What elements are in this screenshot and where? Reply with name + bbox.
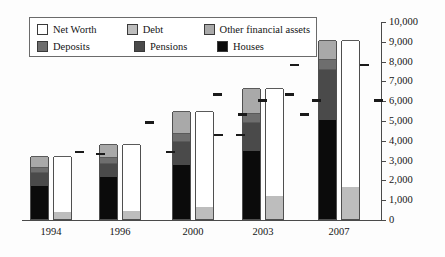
y-axis-tick: [381, 81, 386, 82]
bar-segment-deposits-1996[interactable]: [100, 157, 117, 163]
reference-marker-1996: [75, 151, 84, 154]
x-axis-label-2000: 2000: [163, 226, 223, 237]
bar-segment-debt-1994[interactable]: [54, 212, 71, 219]
y-axis-tick-label: 10,000: [389, 17, 418, 27]
bar-segment-net-worth-1994[interactable]: [54, 156, 71, 212]
bar-chart: Net Worth Debt Other financial assets De…: [0, 0, 445, 257]
bar-group-2007: [318, 22, 362, 220]
bar-segment-pensions-2007[interactable]: [319, 69, 336, 120]
reference-marker-2007: [258, 99, 267, 102]
x-axis-label-2007: 2007: [309, 226, 369, 237]
y-axis-tick-label: 9,000: [389, 37, 413, 47]
bar-segment-other-financial-assets-1994[interactable]: [31, 156, 48, 167]
bar-group-2003: [242, 22, 286, 220]
assets-bar-2000[interactable]: [172, 112, 191, 220]
bar-group-1996: [99, 22, 143, 220]
y-axis-tick: [381, 200, 386, 201]
reference-marker-2000: [236, 134, 245, 137]
bar-segment-net-worth-1996[interactable]: [123, 144, 140, 211]
reference-marker-2000: [214, 134, 223, 137]
y-axis-tick-label: 2,000: [389, 175, 413, 185]
bar-segment-pensions-1996[interactable]: [100, 163, 117, 178]
assets-bar-1994[interactable]: [30, 157, 49, 220]
networth-bar-2000[interactable]: [195, 112, 214, 220]
y-axis-tick: [381, 180, 386, 181]
y-axis-tick-label: 5,000: [389, 116, 413, 126]
networth-bar-2007[interactable]: [341, 41, 360, 220]
bar-segment-pensions-2003[interactable]: [243, 122, 260, 151]
reference-marker-2000: [145, 121, 154, 124]
reference-marker-2003: [213, 93, 222, 96]
x-axis-label-1994: 1994: [21, 226, 81, 237]
bar-segment-houses-2007[interactable]: [319, 120, 336, 219]
plot-area: [22, 22, 374, 220]
y-axis-tick: [381, 22, 386, 23]
y-axis-tick-label: 1,000: [389, 195, 413, 205]
bar-segment-debt-2007[interactable]: [342, 187, 359, 219]
bar-segment-deposits-2007[interactable]: [319, 59, 336, 69]
y-axis-tick-label: 6,000: [389, 96, 413, 106]
assets-bar-2007[interactable]: [318, 41, 337, 220]
assets-bar-1996[interactable]: [99, 145, 118, 220]
bar-segment-other-financial-assets-2000[interactable]: [173, 111, 190, 133]
bar-segment-houses-2000[interactable]: [173, 165, 190, 219]
bar-segment-debt-2003[interactable]: [266, 196, 283, 219]
y-axis-tick-label: 8,000: [389, 57, 413, 67]
bar-segment-deposits-2000[interactable]: [173, 133, 190, 141]
bar-segment-net-worth-2007[interactable]: [342, 40, 359, 188]
bar-segment-debt-2000[interactable]: [196, 207, 213, 219]
y-axis-tick: [381, 62, 386, 63]
networth-bar-1996[interactable]: [122, 145, 141, 220]
reference-marker-2007: [360, 64, 369, 67]
y-axis-tick-label: 3,000: [389, 156, 413, 166]
reference-marker-2007: [312, 99, 321, 102]
reference-marker-2007: [290, 64, 299, 67]
y-axis-tick-label: 7,000: [389, 76, 413, 86]
bar-segment-pensions-2000[interactable]: [173, 141, 190, 165]
y-axis-tick-label: 4,000: [389, 136, 413, 146]
bar-segment-deposits-1994[interactable]: [31, 167, 48, 173]
y-axis-tick: [381, 220, 386, 221]
reference-marker-1996: [166, 151, 175, 154]
y-axis-tick: [381, 161, 386, 162]
bar-segment-other-financial-assets-2007[interactable]: [319, 40, 336, 59]
y-axis-tick: [381, 121, 386, 122]
bar-group-2000: [172, 22, 216, 220]
y-axis-tick: [381, 42, 386, 43]
reference-marker-2007: [374, 99, 383, 102]
x-axis-line: [22, 220, 382, 221]
y-axis-tick-label: 0: [389, 215, 394, 225]
x-axis-label-2003: 2003: [233, 226, 293, 237]
bar-group-1994: [30, 22, 74, 220]
y-axis-tick: [381, 141, 386, 142]
networth-bar-1994[interactable]: [53, 157, 72, 220]
bar-segment-net-worth-2003[interactable]: [266, 88, 283, 196]
bar-segment-pensions-1994[interactable]: [31, 172, 48, 186]
x-axis-label-1996: 1996: [90, 226, 150, 237]
bar-segment-houses-2003[interactable]: [243, 151, 260, 219]
assets-bar-2003[interactable]: [242, 89, 261, 220]
reference-marker-1994: [96, 153, 105, 156]
bar-segment-houses-1996[interactable]: [100, 177, 117, 219]
bar-segment-houses-1994[interactable]: [31, 186, 48, 219]
reference-marker-2003: [300, 113, 309, 116]
reference-marker-2003: [285, 93, 294, 96]
reference-marker-2003: [238, 113, 247, 116]
bar-segment-debt-1996[interactable]: [123, 211, 140, 219]
networth-bar-2003[interactable]: [265, 89, 284, 220]
bar-segment-net-worth-2000[interactable]: [196, 111, 213, 207]
